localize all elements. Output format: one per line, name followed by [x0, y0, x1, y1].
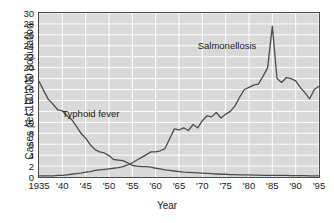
chart-canvas — [39, 13, 319, 177]
y-tick-label: 16 — [23, 85, 34, 94]
x-tick-label: '50 — [103, 181, 115, 191]
y-tick-label: 2 — [29, 162, 34, 171]
y-tick-label: 28 — [23, 19, 34, 28]
y-tick-label: 26 — [23, 30, 34, 39]
series-label-salmonellosis: Salmonellosis — [198, 40, 257, 51]
y-tick-label: 12 — [23, 107, 34, 116]
y-tick-label: 20 — [23, 63, 34, 72]
y-tick-label: 14 — [23, 96, 34, 105]
series-label-typhoid-fever: Typhoid fever — [62, 108, 119, 119]
x-axis-tick-labels: 1935'40'45'50'55'60'65'70'75'80'85'90'95 — [0, 181, 334, 195]
x-tick-label: '70 — [196, 181, 208, 191]
x-tick-label: '80 — [243, 181, 255, 191]
x-tick-label: '55 — [126, 181, 138, 191]
chart-figure: Cases per 100,000 population 02468101214… — [0, 0, 334, 223]
y-tick-label: 10 — [23, 118, 34, 127]
y-tick-label: 22 — [23, 52, 34, 61]
y-tick-label: 8 — [29, 129, 34, 138]
x-tick-label: '90 — [289, 181, 301, 191]
x-tick-label: '40 — [56, 181, 68, 191]
x-axis-title: Year — [0, 200, 334, 211]
x-tick-label: '75 — [219, 181, 231, 191]
y-tick-label: 4 — [29, 151, 34, 160]
y-tick-label: 24 — [23, 41, 34, 50]
plot-area: Typhoid fever Salmonellosis — [38, 12, 320, 178]
x-tick-label: '95 — [313, 181, 325, 191]
x-tick-label: '60 — [149, 181, 161, 191]
x-tick-label: '45 — [79, 181, 91, 191]
y-tick-label: 6 — [29, 140, 34, 149]
x-tick-label: '65 — [173, 181, 185, 191]
y-tick-label: 30 — [23, 9, 34, 18]
y-tick-label: 18 — [23, 74, 34, 83]
x-tick-label: '85 — [266, 181, 278, 191]
x-tick-label: 1935 — [28, 181, 49, 191]
